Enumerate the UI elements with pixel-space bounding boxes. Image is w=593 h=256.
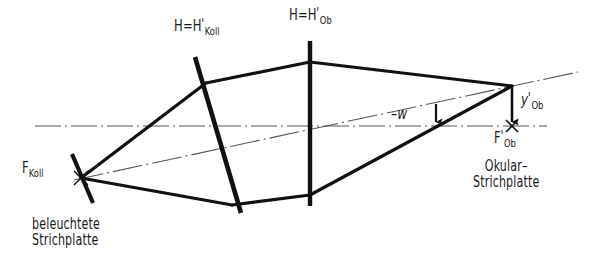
label-y-ob-sub: Ob — [531, 99, 543, 112]
ray-upper-left — [81, 83, 206, 178]
label-h-ob-sub: Ob — [320, 14, 332, 27]
ray-upper-right — [310, 62, 512, 86]
label-source-plate-line2: Strichplatte — [32, 232, 100, 248]
label-eyepiece-plate-line2: Strichplatte — [473, 174, 539, 190]
label-f-ob-sub: Ob — [504, 137, 516, 150]
ray-lower-middle — [232, 195, 310, 205]
label-f-koll-base: F — [22, 159, 29, 177]
label-h-ob-prime: ' — [316, 4, 319, 20]
optical-diagram: H=H'Koll H=H'Ob FKoll beleuchtete Strich… — [0, 0, 593, 256]
label-field-angle: –w — [391, 106, 407, 122]
label-h-koll-sub: Koll — [205, 25, 220, 38]
label-f-koll-sub: Koll — [29, 167, 44, 180]
label-image-height: y'Ob — [521, 92, 544, 112]
label-y-ob-prime: ' — [528, 89, 531, 105]
ray-upper-middle — [206, 62, 310, 83]
label-principal-plane-collimator: H=H'Koll — [174, 18, 220, 38]
label-eyepiece-reticle: Okular– Strichplatte — [473, 158, 539, 190]
label-focal-point-collimator: FKoll — [22, 160, 44, 180]
label-illuminated-reticle: beleuchtete Strichplatte — [32, 216, 100, 248]
label-focal-point-objective-image: F'Ob — [494, 130, 516, 150]
label-source-plate-line1: beleuchtete — [32, 216, 100, 232]
ray-lower-left — [81, 178, 232, 205]
label-f-ob-prime: ' — [500, 127, 503, 143]
label-h-koll-prime: ' — [201, 15, 204, 31]
label-h-koll-base: H=H — [174, 17, 202, 35]
label-eyepiece-plate-line1: Okular– — [473, 158, 539, 174]
label-principal-plane-objective: H=H'Ob — [289, 7, 332, 27]
label-h-ob-base: H=H — [289, 6, 317, 24]
